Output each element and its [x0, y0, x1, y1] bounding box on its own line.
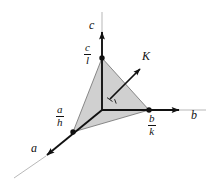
a-intercept-numerator: a [56, 104, 64, 115]
b-axis-label: b [191, 109, 197, 121]
c-intercept-label: c l [84, 42, 91, 66]
lattice-plane [73, 58, 149, 132]
c-intercept-denominator: l [84, 55, 91, 66]
figure-canvas [0, 0, 220, 185]
crystal-plane-figure: c b a K c l b k a h [0, 0, 220, 185]
b-intercept-label: b k [148, 113, 156, 137]
b-intercept-denominator: k [148, 126, 156, 137]
c-axis-label: c [89, 19, 94, 31]
a-intercept-denominator: h [56, 117, 64, 128]
a-intercept-point [70, 129, 75, 134]
b-intercept-numerator: b [148, 113, 156, 124]
c-intercept-numerator: c [84, 42, 91, 53]
a-axis-label: a [31, 142, 37, 154]
k-vector-label: K [142, 50, 150, 62]
a-axis-extension [14, 156, 46, 178]
c-intercept-point [99, 55, 104, 60]
a-intercept-label: a h [56, 104, 64, 128]
